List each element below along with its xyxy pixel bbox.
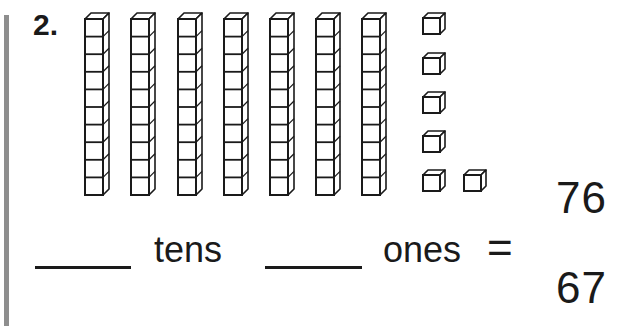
unit-cube [422, 130, 446, 157]
answer-choice-67[interactable]: 67 [556, 266, 607, 310]
ten-rod [315, 12, 341, 200]
tens-answer-blank[interactable] [35, 266, 131, 269]
ten-rod [223, 12, 249, 200]
ten-rod [269, 12, 295, 200]
unit-cube [422, 91, 446, 118]
ten-rod [84, 12, 110, 200]
equals-sign: = [487, 226, 513, 270]
margin-bar [4, 15, 9, 326]
answer-choice-76[interactable]: 76 [556, 176, 607, 220]
ten-rod [130, 12, 156, 200]
ones-answer-blank[interactable] [265, 266, 362, 269]
ones-label: ones [383, 232, 461, 268]
tens-label: tens [154, 232, 222, 268]
unit-cube [422, 169, 446, 196]
unit-cube [422, 12, 446, 39]
problem-number: 2. [33, 10, 58, 40]
ten-rod [177, 12, 203, 200]
unit-cube [463, 169, 487, 196]
ten-rod [361, 12, 387, 200]
unit-cube [422, 52, 446, 79]
